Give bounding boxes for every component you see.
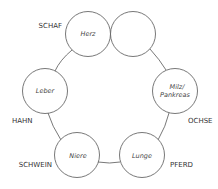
animal-label-pferd: PFERD (170, 161, 193, 169)
organ-label-niere: Niere (69, 152, 86, 160)
organ-label-herz: Herz (81, 30, 97, 38)
organ-clock-diagram: Herz Milz/ Pankreas Lunge Niere Leber SC… (0, 0, 218, 189)
organ-label-milz-1: Milz/ (170, 83, 186, 91)
connector-lunge-milz (158, 113, 169, 140)
connector-empty-milz (150, 49, 166, 70)
connector-leber-niere (48, 113, 61, 140)
connector-niere-lunge (98, 162, 120, 163)
organ-label-leber: Leber (36, 87, 56, 95)
animal-label-schaf: SCHAF (39, 22, 62, 30)
animal-label-hahn: HAHN (12, 117, 33, 125)
organ-label-milz-2: Pankreas (160, 91, 190, 99)
animal-label-ochse: OCHSE (188, 117, 213, 125)
connector-herz-leber (55, 50, 72, 71)
animal-label-schwein: SCHWEIN (19, 161, 52, 169)
organ-label-lunge: Lunge (132, 152, 152, 160)
organ-circle-empty (111, 12, 156, 57)
